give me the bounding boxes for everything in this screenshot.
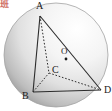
geometry-canvas	[0, 0, 112, 111]
geometry-figure: A B C D O 班	[0, 0, 112, 111]
vertex-label-d: D	[104, 85, 111, 95]
watermark-text: 班	[0, 0, 9, 9]
sphere-center-label: O	[61, 47, 68, 56]
vertex-label-a: A	[36, 1, 43, 11]
vertex-label-b: B	[22, 91, 29, 101]
vertex-label-c: C	[52, 65, 59, 75]
sphere-center-point	[65, 58, 68, 61]
